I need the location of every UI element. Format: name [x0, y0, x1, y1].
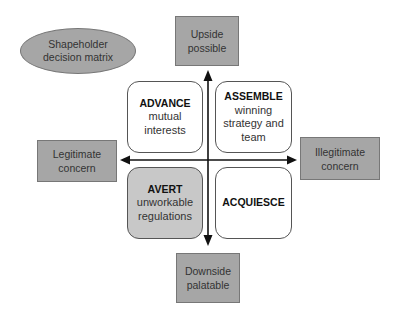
axis-top-line2: possible: [188, 41, 227, 55]
axis-left-line1: Legitimate: [53, 147, 101, 161]
axis-label-right: Illegitimate concern: [300, 137, 380, 180]
axis-left-line2: concern: [58, 161, 95, 175]
quadrant-advance-title: ADVANCE: [139, 97, 190, 111]
axis-right-line2: concern: [321, 159, 358, 173]
quadrant-advance-line2: interests: [144, 124, 186, 138]
quadrant-acquiesce: ACQUIESCE: [215, 167, 292, 239]
quadrant-advance: ADVANCE mutual interests: [127, 81, 203, 153]
quadrant-avert: AVERT unworkable regulations: [127, 167, 203, 239]
quadrant-avert-line2: regulations: [138, 210, 192, 224]
axis-label-top: Upside possible: [175, 16, 239, 66]
quadrant-assemble-line3: team: [241, 131, 265, 145]
quadrant-avert-title: AVERT: [148, 183, 183, 197]
axis-bottom-line2: palatable: [187, 278, 230, 292]
axis-label-left: Legitimate concern: [37, 140, 117, 182]
quadrant-advance-line1: mutual: [148, 110, 181, 124]
axis-top-line1: Upside: [191, 27, 224, 41]
quadrant-assemble-line2: strategy and: [223, 117, 284, 131]
axis-label-bottom: Downside palatable: [176, 253, 240, 303]
quadrant-acquiesce-title: ACQUIESCE: [222, 196, 284, 210]
axis-right-line1: Illegitimate: [315, 145, 365, 159]
quadrant-assemble: ASSEMBLE winning strategy and team: [215, 81, 292, 153]
quadrant-avert-line1: unworkable: [137, 196, 193, 210]
axis-bottom-line1: Downside: [185, 264, 231, 278]
quadrant-assemble-line1: winning: [235, 104, 272, 118]
quadrant-assemble-title: ASSEMBLE: [224, 90, 282, 104]
